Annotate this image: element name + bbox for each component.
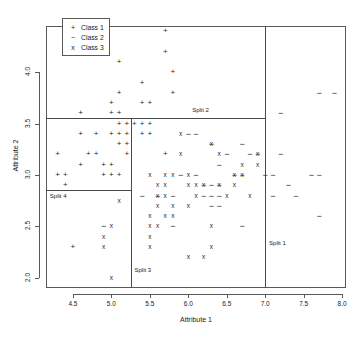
data-point-class-3: x [171,203,174,210]
y-axis-tick [35,226,39,227]
split-line-split-1 [265,26,266,288]
y-axis-tick-label: 2.0 [24,268,31,286]
data-point-class-2: − [316,88,321,97]
data-point-class-3: x [110,274,113,281]
data-point-class-3: x [210,244,213,251]
x-axis-tick [188,294,189,298]
data-point-class-2: − [224,150,229,159]
x-axis-tick-label: 6.0 [174,300,202,307]
data-point-class-3: x [241,161,244,168]
data-point-class-3: x [148,213,151,220]
scatter-plot-figure: ++++++++++++++++++++++++++++++++++++++++… [0,0,358,339]
data-point-class-3: x [148,223,151,230]
data-point-class-2: − [170,222,175,231]
data-point-class-3: x [248,192,251,199]
data-point-class-3: x [187,172,190,179]
data-point-class-3: x [164,213,167,220]
data-point-class-2: − [209,191,214,200]
data-point-class-1: + [109,161,114,169]
data-point-class-2: − [270,170,275,179]
legend: +Class 1−Class 2xClass 3 [62,18,110,56]
data-point-class-1: + [109,99,114,107]
data-point-class-2: − [140,191,145,200]
data-point-class-1: + [117,140,122,148]
data-point-class-3: x [194,182,197,189]
data-point-class-3: x [148,233,151,240]
data-point-class-1: + [78,109,83,117]
data-point-class-1: + [140,99,145,107]
x-axis-title: Attribute 1 [166,316,226,323]
data-point-class-1: + [124,140,129,148]
data-point-class-3: x [171,172,174,179]
data-point-class-2: − [293,191,298,200]
legend-symbol-class-1: + [67,24,79,31]
data-point-class-1: + [86,150,91,158]
data-point-class-3: x [217,151,220,158]
data-point-class-3: x [102,233,105,240]
data-point-class-1: + [101,171,106,179]
x-axis-tick [227,294,228,298]
data-point-class-1: + [148,130,153,138]
data-point-class-3: x [164,182,167,189]
x-axis-tick [150,294,151,298]
y-axis-tick-label: 2.5 [24,217,31,235]
data-point-class-2: − [270,191,275,200]
y-axis-tick-label: 3.5 [24,114,31,132]
data-point-class-2: − [316,212,321,221]
data-point-class-2: − [216,201,221,210]
data-point-class-3: x [156,223,159,230]
x-axis-tick-label: 5.5 [136,300,164,307]
data-point-class-1: + [163,27,168,35]
data-point-class-2: − [101,222,106,231]
data-point-class-1: + [55,171,60,179]
data-point-class-1: + [101,161,106,169]
data-point-class-2: − [286,181,291,190]
x-axis-tick [111,294,112,298]
data-point-class-2: − [178,170,183,179]
data-point-class-3: x [210,223,213,230]
data-point-class-1: + [94,150,99,158]
legend-label: Class 2 [79,34,104,41]
data-point-class-2: − [193,129,198,138]
data-point-class-2: − [278,150,283,159]
x-axis-line [73,294,342,295]
plot-panel-border [46,26,346,288]
split-label-split-3: Split 3 [134,267,151,273]
data-point-class-1: + [109,171,114,179]
x-axis-tick [342,294,343,298]
data-point-class-2: − [240,140,245,149]
data-point-class-2: − [209,201,214,210]
legend-label: Class 1 [79,24,104,31]
data-point-class-1: + [163,48,168,56]
data-point-class-3: x [156,182,159,189]
data-point-class-3: x [148,244,151,251]
data-point-class-3: x [148,172,151,179]
data-point-class-2: − [263,170,268,179]
y-axis-line [39,72,40,277]
data-point-class-1: + [117,89,122,97]
data-point-class-3: x [117,197,120,204]
data-point-class-1: + [140,130,145,138]
data-point-class-3: x [187,182,190,189]
data-point-class-1: + [163,150,168,158]
data-point-class-1: + [117,109,122,117]
data-point-class-1: + [124,130,129,138]
data-point-class-3: x [110,223,113,230]
data-point-class-1: + [140,79,145,87]
legend-item: +Class 1 [67,22,104,32]
data-point-class-1: + [171,89,176,97]
split-line-split-2 [46,118,265,119]
data-point-class-1: + [132,120,137,128]
data-point-class-2: − [170,191,175,200]
data-point-class-2: − [209,181,214,190]
data-point-class-2: − [240,222,245,231]
data-point-class-1: + [117,58,122,66]
data-point-class-1: + [109,130,114,138]
data-point-class-1: + [78,130,83,138]
split-label-split-2: Split 2 [192,107,209,113]
legend-symbol-class-2: − [67,34,79,41]
x-axis-tick [73,294,74,298]
data-point-class-3: x [179,151,182,158]
x-axis-tick-label: 7.5 [290,300,318,307]
split-label-split-4: Split 4 [50,193,67,199]
